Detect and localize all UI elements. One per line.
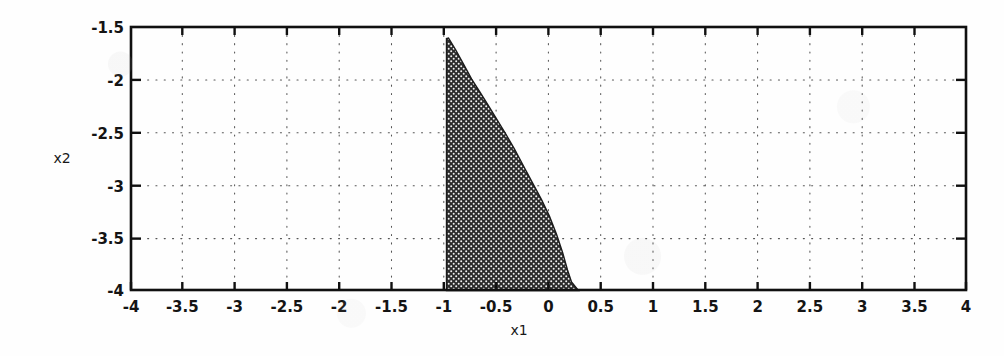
x-tick-label: 1 <box>648 298 658 316</box>
x-tick-label: 3 <box>857 298 867 316</box>
y-tick-label: -2 <box>107 72 124 90</box>
x-tick-label: 0.5 <box>587 298 614 316</box>
x-tick-label: -3 <box>226 298 243 316</box>
y-tick-label: -3.5 <box>91 230 124 248</box>
x-axis-title: x1 <box>510 322 527 338</box>
x-tick-label: 3.5 <box>901 298 928 316</box>
plot-area: -4 -3.5 -3 -2.5 -2 -1.5 -1 -0.5 0 0.5 1 … <box>0 0 1004 356</box>
x-tick-label: -1.5 <box>375 298 408 316</box>
y-tick-label: -4 <box>107 282 124 300</box>
y-tick-label: -2.5 <box>91 125 124 143</box>
x-axis-tick-labels: -4 -3.5 -3 -2.5 -2 -1.5 -1 -0.5 0 0.5 1 … <box>123 298 972 316</box>
x-tick-label: 2.5 <box>797 298 824 316</box>
shaded-region-path <box>447 38 579 291</box>
figure-canvas: -4 -3.5 -3 -2.5 -2 -1.5 -1 -0.5 0 0.5 1 … <box>0 0 1004 356</box>
x-tick-label: -4 <box>123 298 140 316</box>
y-tick-label: -3 <box>107 178 124 196</box>
x-tick-label: 4 <box>961 298 971 316</box>
x-tick-label: 0 <box>543 298 553 316</box>
y-axis-tick-labels: -4 -3.5 -3 -2.5 -2 -1.5 <box>91 19 124 300</box>
x-tick-label: 1.5 <box>692 298 719 316</box>
x-tick-label: -2.5 <box>270 298 303 316</box>
y-tick-label: -1.5 <box>91 19 124 37</box>
x-tick-label: -0.5 <box>480 298 513 316</box>
shaded-region <box>447 38 579 291</box>
x-tick-label: -1 <box>435 298 452 316</box>
x-tick-label: 2 <box>752 298 762 316</box>
y-axis-ticks-right <box>956 80 966 239</box>
x-tick-label: -3.5 <box>166 298 199 316</box>
y-axis-ticks-left <box>131 80 141 239</box>
y-axis-title: x2 <box>53 150 70 166</box>
x-tick-label: -2 <box>331 298 348 316</box>
